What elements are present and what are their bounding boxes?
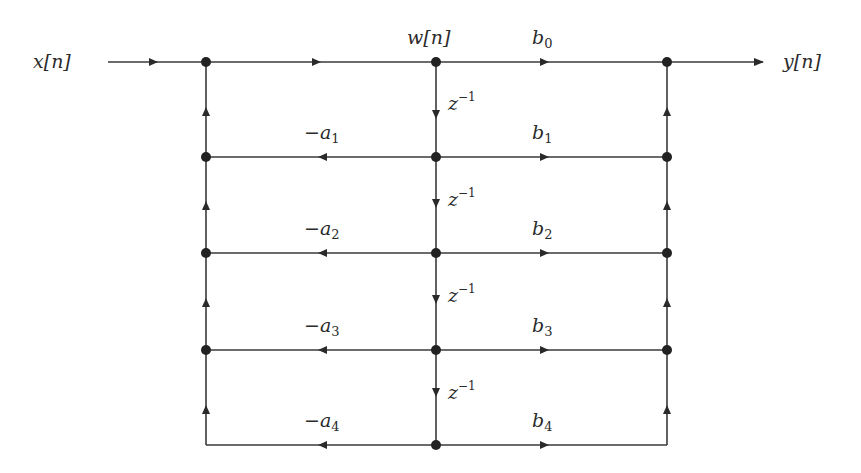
delay-label-4: z−1 — [448, 380, 476, 402]
coef-neg-a4: −a4 — [304, 411, 340, 433]
coef-neg-a3: −a3 — [304, 316, 340, 338]
coef-neg-a2: −a2 — [304, 219, 340, 241]
state-label: w[n] — [407, 28, 450, 47]
coef-b3: b3 — [532, 316, 552, 338]
coef-b2: b2 — [532, 219, 552, 241]
coef-neg-a1: −a1 — [304, 123, 340, 145]
output-label: y[n] — [783, 52, 821, 71]
delay-label-1: z−1 — [448, 91, 476, 113]
coef-b0: b0 — [532, 28, 552, 50]
input-label: x[n] — [33, 52, 71, 71]
signal-flow-diagram: x[n] y[n] w[n] z−1 z−1 z−1 z−1 b0 b1 b2 … — [0, 0, 861, 473]
delay-label-3: z−1 — [448, 283, 476, 305]
coef-b4: b4 — [532, 411, 552, 433]
delay-label-2: z−1 — [448, 187, 476, 209]
flow-graph-lines — [0, 0, 861, 473]
coef-b1: b1 — [532, 123, 552, 145]
